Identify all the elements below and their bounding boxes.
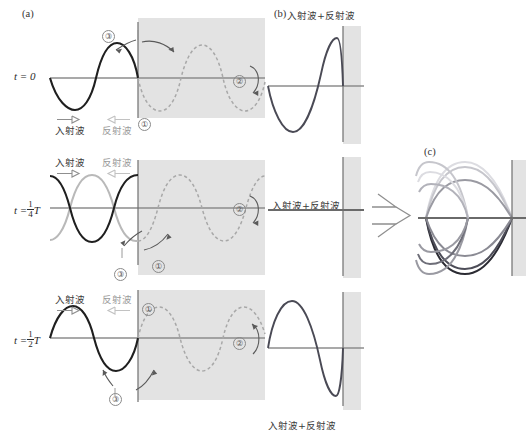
- period-symbol-row3: T: [34, 334, 40, 346]
- marker-1-row2-glyph: ①: [152, 260, 165, 273]
- wall-region-b-row3: [343, 292, 361, 410]
- superposition-label-row1: 入射波+反射波: [287, 8, 355, 22]
- superposition-label-row3: 入射波+反射波: [268, 418, 336, 432]
- marker-3-row2: ③: [114, 263, 127, 281]
- panel-b-row2: [268, 155, 380, 280]
- incident-label-row2: 入射波: [55, 155, 85, 169]
- time-label-row2: t =14T: [14, 200, 40, 220]
- reflected-arrow-row3: [104, 306, 130, 315]
- marker-2-row3: ②: [233, 332, 246, 350]
- marker-2-row1: ②: [233, 70, 246, 88]
- panel-c-left-lobes-svg: [418, 158, 530, 278]
- panel-b-row2-svg: [268, 155, 380, 280]
- panel-b-row3-svg: [268, 292, 380, 412]
- incident-arrow-row3: [57, 306, 83, 315]
- standing-left-upper-light: [416, 162, 468, 218]
- standing-left-lower-mid: [416, 218, 468, 274]
- reflected-label-row1: 反射波: [102, 123, 132, 137]
- marker-3-row1-glyph: ③: [102, 30, 115, 43]
- marker-1-row2: ①: [152, 255, 165, 273]
- panel-a-row1: [50, 18, 265, 118]
- incident-arrow-row2: [57, 169, 83, 178]
- marker-1-row3-glyph: ①: [142, 303, 155, 316]
- time-label-row1: t = 0: [14, 70, 35, 82]
- standing-left-lower-dark: [418, 218, 468, 264]
- wall-region-b-row1: [343, 26, 361, 144]
- panel-b-row1: [268, 24, 380, 144]
- reflected-label-row2: 反射波: [102, 155, 132, 169]
- incident-wave-row1: [50, 43, 138, 110]
- time-label-row1-text: t = 0: [14, 70, 35, 82]
- panel-tag-b: (b): [274, 8, 286, 19]
- wall-region-row1: [138, 18, 265, 118]
- panel-c-left-lobes: [418, 158, 530, 278]
- panel-tag-a: (a): [22, 8, 34, 19]
- transition-arrow-svg: [372, 194, 414, 238]
- time-eq-row3: t =: [14, 334, 27, 346]
- transition-arrow: [372, 194, 414, 238]
- standing-left-upper-lighter: [418, 172, 468, 218]
- panel-b-row1-svg: [268, 24, 380, 144]
- marker-3-row2-glyph: ③: [114, 268, 127, 281]
- incident-label-row1: 入射波: [55, 123, 85, 137]
- marker-3-row3: ③: [109, 388, 122, 406]
- panel-a-row1-svg: [50, 18, 265, 118]
- marker-1-row1-glyph: ①: [138, 118, 151, 131]
- panel-tag-c: (c): [424, 146, 436, 157]
- marker-3-row1: ③: [102, 25, 115, 43]
- superposition-wave-row1: [268, 38, 343, 132]
- incident-label-row3: 入射波: [55, 292, 85, 306]
- wall-region-b-row2: [343, 157, 361, 278]
- marker-3-row3-glyph: ③: [109, 393, 122, 406]
- marker-2-row2-glyph: ②: [233, 203, 246, 216]
- reflected-label-row3: 反射波: [102, 292, 132, 306]
- time-label-row3: t =12T: [14, 330, 40, 350]
- marker-1-row3: ①: [142, 298, 155, 316]
- marker-2-row2: ②: [233, 198, 246, 216]
- panel-b-row3: [268, 292, 380, 412]
- period-symbol-row2: T: [34, 204, 40, 216]
- reflected-arrow-row2: [104, 169, 130, 178]
- marker-1-row1: ①: [138, 113, 151, 131]
- time-eq-row2: t =: [14, 204, 27, 216]
- marker-2-row3-glyph: ②: [233, 337, 246, 350]
- marker-2-row1-glyph: ②: [233, 75, 246, 88]
